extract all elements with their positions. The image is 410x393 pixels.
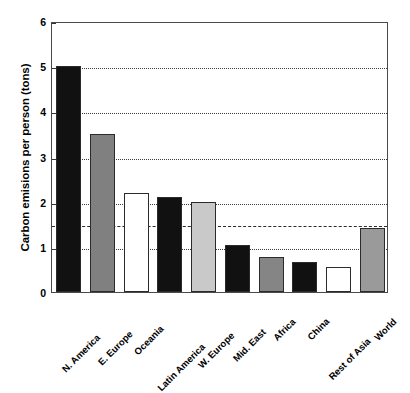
y-tick-label: 4 bbox=[32, 106, 46, 118]
bar-series bbox=[52, 23, 387, 292]
bar bbox=[191, 202, 216, 292]
bar bbox=[259, 257, 284, 292]
bar bbox=[56, 66, 81, 292]
bar bbox=[360, 228, 385, 292]
x-tick-label: China bbox=[305, 316, 331, 342]
x-tick-label: Oceania bbox=[132, 323, 166, 357]
y-axis-tick-labels: 0123456 bbox=[28, 0, 46, 363]
y-tick-label: 1 bbox=[32, 242, 46, 254]
y-tick-label: 6 bbox=[32, 16, 46, 28]
bar bbox=[90, 134, 115, 292]
bar bbox=[157, 197, 182, 292]
bar bbox=[124, 193, 149, 292]
x-tick-label: Mid. East bbox=[231, 326, 268, 363]
x-tick-label: World bbox=[372, 316, 399, 343]
plot-area bbox=[51, 22, 388, 293]
x-tick-label: Rest of Asia bbox=[327, 336, 373, 382]
y-tick-label: 2 bbox=[32, 197, 46, 209]
bar bbox=[326, 267, 351, 292]
y-tick-label: 3 bbox=[32, 152, 46, 164]
bar bbox=[292, 262, 317, 292]
x-axis-tick-labels: N. AmericaE. EuropeOceaniaLatin AmericaW… bbox=[51, 293, 388, 363]
x-tick-label: Africa bbox=[271, 316, 298, 343]
x-tick-label: N. America bbox=[59, 332, 102, 375]
x-tick-label: E. Europe bbox=[95, 328, 134, 367]
y-tick-label: 5 bbox=[32, 61, 46, 73]
y-tick-label: 0 bbox=[32, 287, 46, 299]
bar bbox=[225, 245, 250, 292]
